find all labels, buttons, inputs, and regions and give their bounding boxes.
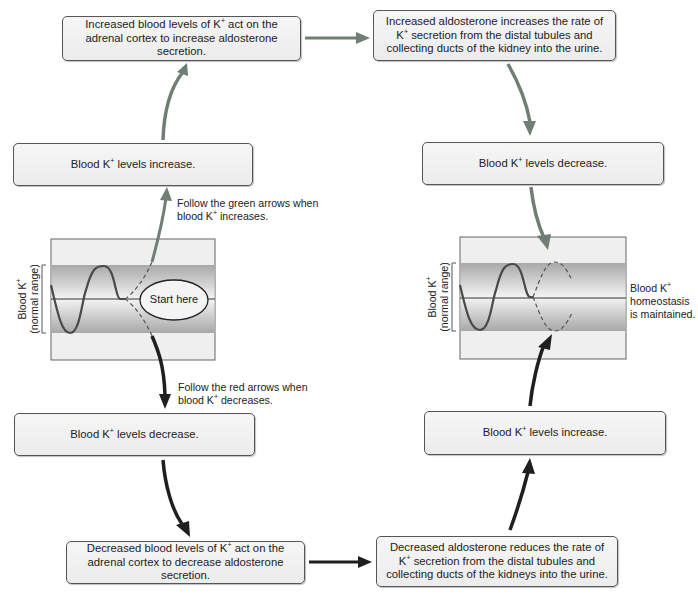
box-text: levels decrease.	[114, 428, 199, 440]
box-text: Blood K	[71, 158, 111, 170]
superscript: +	[425, 276, 432, 280]
left-graph-y-axis-label: Blood K+ (normal range)	[16, 259, 40, 339]
box-decrease-aldosterone-secretion: Decreased blood levels of K+ act on the …	[66, 541, 305, 584]
axis-text: (normal range)	[438, 257, 450, 337]
box-reduce-k-secretion: Decreased aldosterone reduces the rate o…	[376, 536, 618, 587]
axis-text: (normal range)	[28, 259, 40, 339]
box-text: levels increase.	[114, 158, 195, 170]
note-line: Follow the green arrows when	[177, 197, 318, 210]
note-text: Blood K	[630, 282, 667, 294]
box-text: Blood K	[479, 157, 519, 169]
box-left-levels-decrease: Blood K+ levels decrease.	[14, 413, 255, 456]
box-text: levels increase.	[526, 426, 607, 438]
superscript: +	[15, 278, 22, 282]
note-line: is maintained.	[630, 308, 695, 321]
box-text: secretion from the distal tubules and co…	[386, 29, 602, 55]
note-text: blood K	[177, 210, 213, 222]
note-text: increases.	[217, 210, 268, 222]
right-graph-y-axis-label: Blood K+ (normal range)	[426, 257, 450, 337]
note-line: homeostasis	[630, 295, 695, 308]
box-text: Blood K	[70, 428, 110, 440]
note-homeostasis: Blood K+ homeostasis is maintained.	[630, 282, 695, 321]
box-text: Increased blood levels of K	[85, 18, 221, 30]
box-increase-k-secretion: Increased aldosterone increases the rate…	[373, 10, 616, 61]
note-red-arrows: Follow the red arrows when blood K+ decr…	[178, 381, 308, 407]
note-line: Follow the red arrows when	[178, 381, 308, 394]
box-text: levels decrease.	[522, 157, 607, 169]
box-text: Decreased blood levels of K	[87, 542, 228, 554]
diagram-arrows	[0, 0, 698, 599]
box-right-levels-increase: Blood K+ levels increase.	[424, 411, 666, 455]
axis-text: Blood K	[16, 283, 28, 320]
box-text: secretion from the distal tubules and co…	[386, 555, 608, 581]
note-text: blood K	[178, 394, 214, 406]
box-right-levels-decrease: Blood K+ levels decrease.	[422, 142, 664, 185]
note-green-arrows: Follow the green arrows when blood K+ in…	[177, 197, 318, 223]
note-text: decreases.	[218, 394, 273, 406]
superscript: +	[667, 281, 671, 288]
box-increase-aldosterone-secretion: Increased blood levels of K+ act on the …	[62, 16, 301, 61]
box-text: Blood K	[483, 426, 523, 438]
start-here-label: Start here	[140, 293, 208, 305]
box-left-levels-increase: Blood K+ levels increase.	[13, 143, 253, 186]
axis-text: Blood K	[426, 281, 438, 318]
